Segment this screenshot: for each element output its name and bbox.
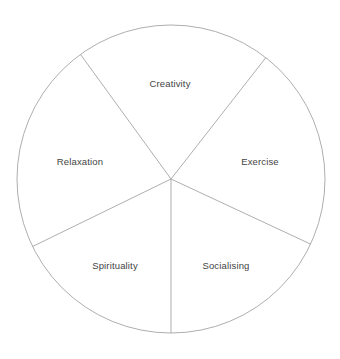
wheel-sectors-group [17,25,325,333]
wheel-of-life-diagram: CreativityExerciseSocialisingSpiritualit… [0,0,340,359]
wheel-label-exercise: Exercise [241,156,279,167]
wheel-label-socialising: Socialising [202,260,249,271]
wheel-label-relaxation: Relaxation [57,156,103,167]
wheel-label-spirituality: Spirituality [92,260,138,271]
wheel-label-creativity: Creativity [149,78,190,89]
